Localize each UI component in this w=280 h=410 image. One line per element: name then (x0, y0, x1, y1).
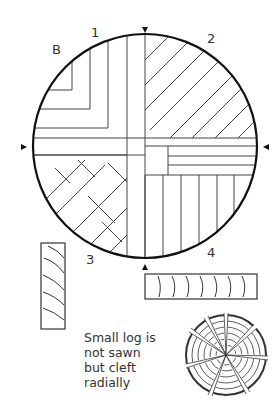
note-line-4: radially (84, 375, 131, 390)
label-1: 1 (91, 25, 99, 40)
label-4: 4 (207, 245, 215, 260)
log-sawing-diagram: B 1 2 3 4 Small log is not sawn but clef… (0, 0, 280, 410)
quadrant-4-pattern (163, 175, 234, 265)
board-4 (145, 274, 257, 299)
note-line-1: Small log is (84, 330, 156, 345)
note-text: Small log is not sawn but cleft radially (84, 330, 156, 390)
cut-patterns (30, 25, 280, 265)
label-b: B (52, 42, 61, 57)
cleft-log (186, 313, 268, 396)
left-arrow-icon (21, 144, 27, 150)
note-line-2: not sawn (84, 345, 141, 360)
right-arrow-icon (263, 144, 269, 150)
note-line-3: but cleft (84, 360, 136, 375)
top-arrow-icon (142, 27, 148, 33)
label-2: 2 (207, 31, 215, 46)
bottom-arrow-icon (142, 264, 148, 270)
board-3 (41, 243, 65, 329)
quadrant-3-pattern (30, 155, 127, 262)
label-3: 3 (86, 252, 94, 267)
